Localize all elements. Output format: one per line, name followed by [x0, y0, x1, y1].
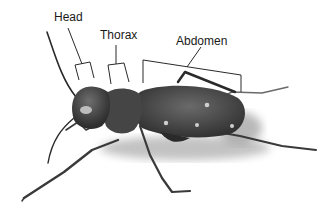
abdomen-leader-line — [187, 47, 201, 67]
label-thorax: Thorax — [100, 28, 137, 42]
spot — [164, 121, 168, 125]
head-leader-line — [68, 28, 82, 64]
spot — [195, 123, 199, 127]
thorax-bracket — [108, 63, 129, 84]
spot — [230, 124, 234, 128]
antenna — [47, 32, 76, 163]
beetle-illustration — [0, 0, 336, 215]
label-abdomen: Abdomen — [176, 34, 227, 48]
insect-anatomy-diagram: Head Thorax Abdomen — [0, 0, 336, 215]
eye — [80, 106, 92, 114]
head-bracket — [75, 62, 94, 80]
spot — [205, 103, 210, 108]
head — [72, 86, 110, 129]
label-head: Head — [54, 10, 83, 24]
abdomen — [134, 86, 245, 142]
